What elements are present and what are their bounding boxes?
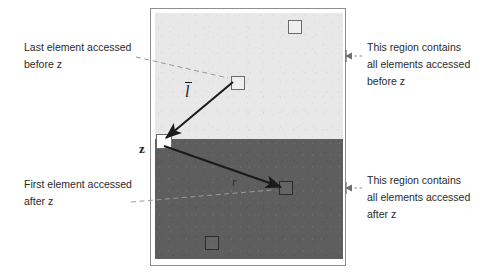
vector-r-label: r <box>232 176 237 188</box>
region-after-z <box>155 139 343 259</box>
note-line: First element accessed <box>24 176 132 193</box>
note-region-before-z: This region contains all elements access… <box>367 39 470 90</box>
vector-l-label: l <box>185 82 192 100</box>
note-line: after z <box>24 193 132 210</box>
note-first-element-after-z: First element accessed after z <box>24 176 132 210</box>
figure-canvas: l r z Last element accessed before z Fir… <box>0 0 504 276</box>
element-square-bottom-left <box>205 236 219 250</box>
element-square-last-before-z <box>231 76 245 90</box>
note-region-after-z: This region contains all elements access… <box>367 172 470 223</box>
diagram-frame <box>150 8 346 266</box>
note-line: before z <box>367 73 470 90</box>
note-line: This region contains <box>367 39 470 56</box>
leader-line-top-right <box>345 50 362 62</box>
element-square-first-after-z <box>279 181 293 195</box>
note-line: before z <box>24 56 131 73</box>
scan-noise-texture-lower <box>155 139 343 259</box>
region-before-z <box>155 13 343 139</box>
note-line: all elements accessed <box>367 189 470 206</box>
element-z-label: z <box>139 141 145 157</box>
note-line: after z <box>367 206 470 223</box>
note-last-element-before-z: Last element accessed before z <box>24 39 131 73</box>
note-line: This region contains <box>367 172 470 189</box>
note-line: all elements accessed <box>367 56 470 73</box>
element-square-top-right <box>288 20 302 34</box>
leader-line-bottom-right <box>345 182 362 194</box>
note-line: Last element accessed <box>24 39 131 56</box>
scan-noise-texture-upper <box>155 13 343 139</box>
element-square-z <box>156 134 172 149</box>
